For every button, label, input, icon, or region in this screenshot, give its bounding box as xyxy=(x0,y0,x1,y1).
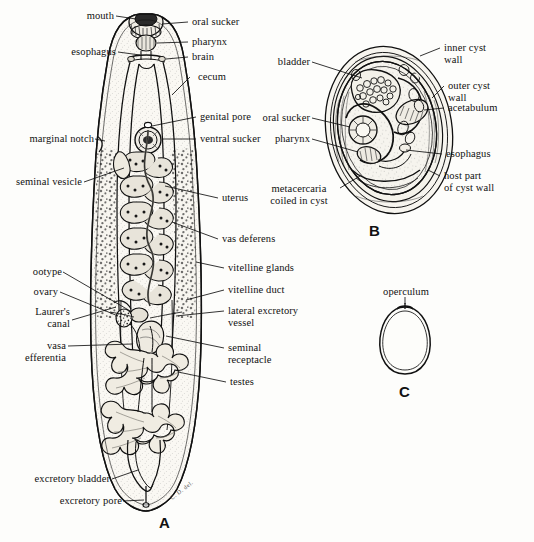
label-b-inner-cyst-wall: inner cyst wall xyxy=(444,42,514,65)
panel-letter-a: A xyxy=(159,514,170,531)
label-a-vas-deferens: vas deferens xyxy=(222,233,298,245)
label-a-ootype: ootype xyxy=(12,266,62,278)
label-a-excretory-pore: excretory pore xyxy=(38,495,122,507)
label-a-cecum: cecum xyxy=(198,71,248,83)
label-b-acetabulum: acetabulum xyxy=(448,102,524,114)
label-a-excretory-bladder: excretory bladder xyxy=(14,473,110,485)
label-a-vitelline-glands: vitelline glands xyxy=(228,262,320,274)
panel-c-artwork xyxy=(380,303,431,374)
label-a-vitelline-duct: vitelline duct xyxy=(228,284,312,296)
label-a-oral-sucker: oral sucker xyxy=(192,16,262,28)
figure-canvas: mouth esophagus marginal notch seminal v… xyxy=(0,0,534,542)
label-a-vasa-efferentia: vasa efferentia xyxy=(10,340,66,363)
label-b-oral-sucker: oral sucker xyxy=(240,112,310,124)
label-b-bladder: bladder xyxy=(252,56,310,68)
label-a-mouth: mouth xyxy=(46,10,114,22)
label-a-esophagus: esophagus xyxy=(40,46,116,58)
label-a-seminal-vesicle: seminal vesicle xyxy=(0,176,82,188)
label-b-host-part-of-cyst-wall: host part of cyst wall xyxy=(444,170,526,193)
label-a-testes: testes xyxy=(230,376,276,388)
label-a-seminal-receptacle: seminal receptacle xyxy=(228,342,294,365)
panel-a-artwork xyxy=(91,8,202,511)
label-a-brain: brain xyxy=(192,51,240,63)
label-b-outer-cyst-wall: outer cyst wall xyxy=(448,80,518,103)
label-b-pharynx: pharynx xyxy=(250,133,310,145)
label-c-operculum: operculum xyxy=(368,286,444,298)
label-a-lateral-excretory-vessel: lateral excretory vessel xyxy=(228,305,324,328)
label-a-pharynx: pharynx xyxy=(192,36,252,48)
label-b-esophagus: esophagus xyxy=(446,148,516,160)
panel-letter-b: B xyxy=(369,222,380,239)
label-b-metacercaria-coiled: metacercaria coiled in cyst xyxy=(258,183,340,206)
label-a-ovary: ovary xyxy=(16,286,58,298)
label-a-marginal-notch: marginal notch xyxy=(6,133,94,145)
panel-letter-c: C xyxy=(399,383,410,400)
label-a-laurers-canal: Laurer's canal xyxy=(14,306,70,329)
